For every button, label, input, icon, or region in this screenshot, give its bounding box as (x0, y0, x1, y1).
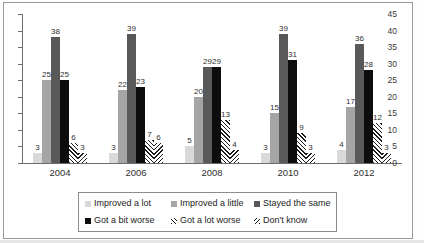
plot-area: 051015202530354045 325382563322392376520… (22, 14, 402, 164)
bar-fill (221, 120, 230, 163)
bar-fill (42, 80, 51, 163)
bar-fill (118, 90, 127, 163)
bar-fill (109, 153, 118, 163)
bar-fill (297, 133, 306, 163)
bar-value-label: 3 (384, 144, 388, 152)
bar-fill (60, 80, 69, 163)
bar-value-label: 29 (212, 58, 221, 66)
bar-fill (355, 44, 364, 163)
legend-label: Improved a lot (94, 199, 151, 208)
bar-fill (154, 143, 163, 163)
bar-value-label: 3 (35, 144, 39, 152)
bar-fill (194, 97, 203, 163)
bar-cluster: 5202929134 (185, 14, 239, 163)
y-axis-line (22, 14, 23, 164)
legend-swatch-icon (171, 201, 177, 207)
bar-fill (212, 67, 221, 163)
bar-value-label: 3 (308, 144, 312, 152)
y-axis-tick (18, 130, 22, 131)
bar-fill (306, 153, 315, 163)
legend-swatch-icon (171, 218, 177, 224)
bar-value-label: 25 (42, 71, 51, 79)
bar-value-label: 39 (279, 25, 288, 33)
bar-value-label: 9 (299, 124, 303, 132)
bar-fill (337, 150, 346, 163)
bar-value-label: 15 (270, 104, 279, 112)
bar-fill (373, 123, 382, 163)
bar-cluster: 322392376 (109, 14, 163, 163)
y-axis-tick (18, 14, 22, 15)
bar-value-label: 23 (136, 78, 145, 86)
y-axis-tick (18, 113, 22, 114)
bar-value-label: 12 (373, 114, 382, 122)
legend-swatch-icon (85, 218, 91, 224)
bar-fill (203, 67, 212, 163)
bar-value-label: 4 (339, 141, 343, 149)
bar-value-label: 29 (203, 58, 212, 66)
x-axis-line (22, 163, 402, 164)
legend-label: Improved a little (180, 199, 244, 208)
y-axis-tick (18, 64, 22, 65)
bar-fill (69, 143, 78, 163)
bar-value-label: 6 (71, 134, 75, 142)
bar-value-label: 3 (263, 144, 267, 152)
bar-fill (382, 153, 391, 163)
bar-fill (145, 140, 154, 163)
bar-value-label: 20 (194, 88, 203, 96)
legend-label: Stayed the same (263, 199, 331, 208)
x-axis-label: 2010 (253, 167, 323, 178)
bar-cluster: 4173628123 (337, 14, 391, 163)
legend-swatch-icon (254, 201, 260, 207)
bar-value-label: 3 (80, 144, 84, 152)
x-axis-label: 2004 (25, 167, 95, 178)
bar-fill (261, 153, 270, 163)
chart-legend: Improved a lotImproved a littleStayed th… (78, 192, 337, 232)
legend-item[interactable]: Got a lot worse (171, 212, 241, 229)
legend-item[interactable]: Don't know (254, 212, 307, 229)
bar-fill (288, 60, 297, 163)
bar-fill (185, 146, 194, 163)
bar-value-label: 38 (51, 28, 60, 36)
bar-value-label: 6 (156, 134, 160, 142)
bar-value-label: 36 (355, 35, 364, 43)
bar-value-label: 22 (118, 81, 127, 89)
bar-value-label: 39 (127, 25, 136, 33)
legend-item[interactable]: Improved a little (171, 195, 244, 212)
legend-swatch-icon (254, 218, 260, 224)
bar-value-label: 13 (221, 111, 230, 119)
bar-value-label: 3 (111, 144, 115, 152)
y-axis-tick (18, 163, 22, 164)
bar-fill (33, 153, 42, 163)
legend-swatch-icon (85, 201, 91, 207)
bar-fill (78, 153, 87, 163)
bar-fill (364, 70, 373, 163)
bar-value-label: 5 (187, 137, 191, 145)
bar-value-label: 31 (288, 51, 297, 59)
legend-label: Don't know (263, 216, 307, 225)
bar-fill (279, 34, 288, 163)
bar-fill (136, 87, 145, 163)
bar-cluster: 315393193 (261, 14, 315, 163)
bar-value-label: 17 (346, 98, 355, 106)
legend-item[interactable]: Got a bit worse (85, 212, 155, 229)
legend-label: Got a lot worse (180, 216, 241, 225)
legend-item[interactable]: Stayed the same (254, 195, 331, 212)
y-axis-tick (18, 97, 22, 98)
bar-value-label: 7 (147, 131, 151, 139)
y-axis-tick (18, 47, 22, 48)
bar-fill (127, 34, 136, 163)
bar-cluster: 325382563 (33, 14, 87, 163)
x-axis-label: 2006 (101, 167, 171, 178)
bar-fill (230, 150, 239, 163)
x-axis-label: 2012 (329, 167, 399, 178)
legend-item[interactable]: Improved a lot (85, 195, 151, 212)
legend-label: Got a bit worse (94, 216, 155, 225)
bar-fill (51, 37, 60, 163)
y-axis-tick (18, 31, 22, 32)
y-axis-tick (18, 146, 22, 147)
bar-fill (270, 113, 279, 163)
plot-inner: 051015202530354045 325382563322392376520… (22, 14, 402, 164)
bar-value-label: 25 (60, 71, 69, 79)
bar-fill (346, 107, 355, 163)
y-axis-tick (18, 80, 22, 81)
